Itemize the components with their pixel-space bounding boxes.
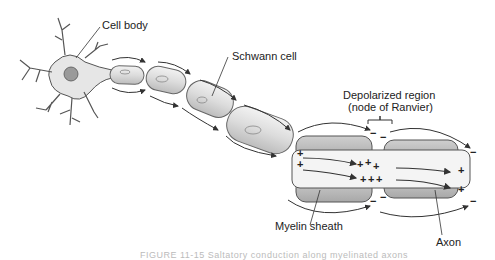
label-node-of-ranvier: (node of Ranvier) [348,101,433,113]
svg-text:+: + [360,173,366,185]
svg-text:−: − [470,195,476,207]
cell-body [20,18,112,125]
svg-text:−: − [380,191,386,203]
svg-text:+: + [376,173,382,185]
svg-text:−: − [470,146,476,158]
label-cell-body: Cell body [102,19,148,31]
svg-text:+: + [368,173,374,185]
node-bracket [368,116,392,124]
svg-text:+: + [365,156,371,168]
svg-text:−: − [370,195,376,207]
label-myelin-sheath: Myelin sheath [275,220,343,232]
label-depolarized-region: Depolarized region [343,89,435,101]
svg-text:+: + [357,158,363,170]
figure-caption: FIGURE 11-15 Saltatory conduction along … [140,250,408,260]
svg-text:+: + [373,160,379,172]
svg-text:−: − [380,131,386,143]
label-axon: Axon [436,236,461,248]
charge-negative: − [370,127,376,139]
svg-text:+: + [458,183,464,195]
svg-text:+: + [297,158,303,170]
svg-text:+: + [458,164,464,176]
schwann-segments [110,64,298,158]
label-schwann-cell: Schwann cell [232,50,297,62]
